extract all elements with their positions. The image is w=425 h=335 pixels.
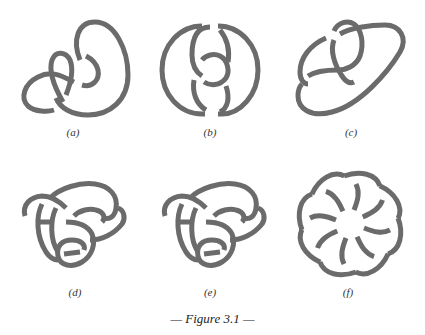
panel-label-d: (d) [55,286,95,298]
panel-label-a: (a) [53,126,93,138]
knot-diagram-c: (c) [280,0,425,150]
knot-diagram-f: (f) [280,160,425,310]
knot-diagram-e: (e) [140,160,280,310]
knot-diagram-d: (d) [0,160,140,310]
knot-diagram-a: (a) [0,0,140,150]
figure-caption: — Figure 3.1 — [0,311,425,327]
panel-label-f: (f) [328,286,368,298]
panel-label-e: (e) [190,286,230,298]
panel-label-c: (c) [331,126,371,138]
panel-label-b: (b) [190,126,230,138]
knot-diagram-b: (b) [140,0,280,150]
